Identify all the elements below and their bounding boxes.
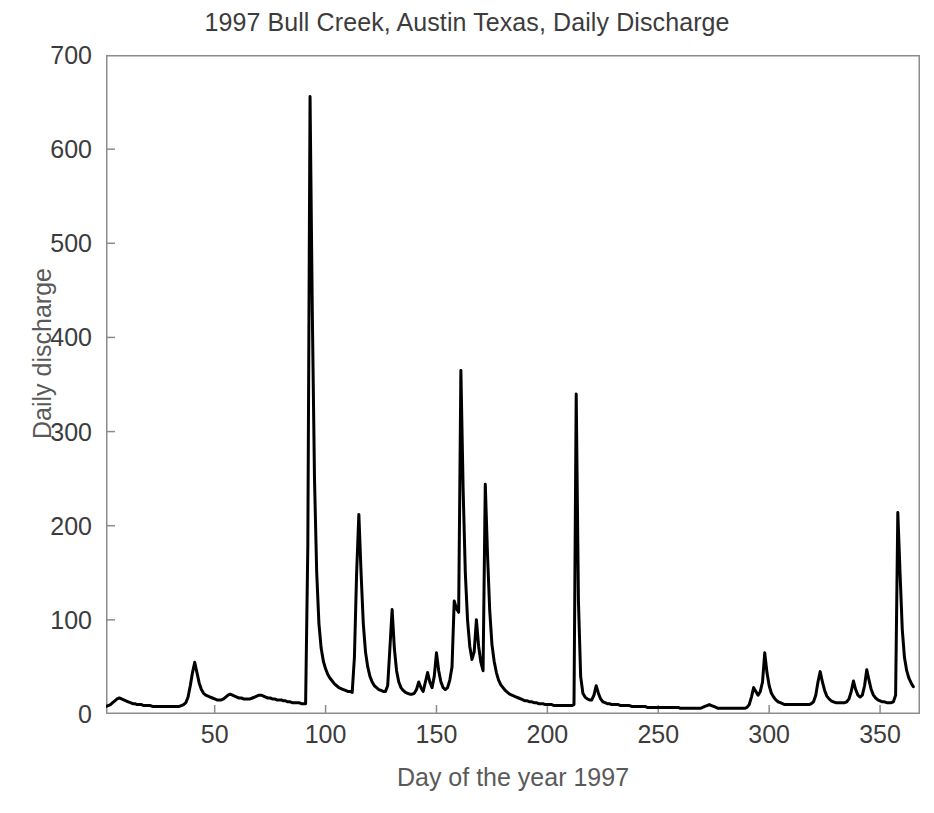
plot-area: [106, 55, 920, 714]
y-tick-label: 600: [6, 137, 92, 162]
y-tick-label: 200: [6, 514, 92, 539]
y-tick-label: 700: [6, 43, 92, 68]
y-tick-label: 100: [6, 608, 92, 633]
y-axis-label: Daily discharge: [28, 204, 57, 504]
x-axis-tick-labels: 50100150200250300350: [106, 722, 920, 762]
x-tick-label: 150: [381, 722, 491, 747]
x-tick-label: 300: [714, 722, 824, 747]
discharge-line-chart: [106, 55, 920, 714]
chart-title: 1997 Bull Creek, Austin Texas, Daily Dis…: [0, 8, 934, 37]
x-tick-label: 200: [492, 722, 602, 747]
x-tick-label: 350: [825, 722, 934, 747]
x-axis-label: Day of the year 1997: [106, 763, 920, 792]
y-tick-label: 0: [6, 702, 92, 727]
x-tick-label: 50: [160, 722, 270, 747]
x-tick-label: 100: [271, 722, 381, 747]
x-tick-label: 250: [603, 722, 713, 747]
plot-frame: [107, 56, 920, 714]
chart-figure: 1997 Bull Creek, Austin Texas, Daily Dis…: [0, 0, 934, 813]
